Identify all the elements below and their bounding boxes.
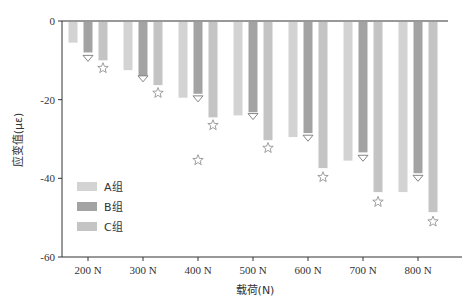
y-ticks: 0-20-40-60: [40, 15, 62, 263]
marker-C组-600N: [318, 172, 328, 182]
y-tick-label: -40: [40, 172, 55, 184]
bar-B组-200N: [84, 22, 93, 52]
legend-label-c: C组: [104, 220, 123, 234]
y-tick-label: 0: [50, 15, 56, 27]
x-tick-label: 200 N: [74, 264, 101, 276]
marker-C组-500N: [263, 143, 273, 153]
x-tick-label: 500 N: [239, 264, 266, 276]
bar-C组-300N: [154, 22, 163, 85]
marker-B组-700N: [358, 155, 368, 161]
x-tick-label: 400 N: [184, 264, 211, 276]
bar-C组-600N: [319, 22, 328, 168]
marker-C组-700N: [373, 196, 383, 206]
bar-B组-700N: [359, 22, 368, 152]
legend-swatch-a: [77, 182, 97, 191]
x-tick-label: 300 N: [129, 264, 156, 276]
marker-C组-400N: [208, 120, 218, 130]
bar-A组-200N: [69, 22, 78, 43]
marker-B组-600N: [303, 135, 313, 141]
bar-A组-600N: [289, 22, 298, 137]
marker-C组-800N: [428, 216, 438, 226]
bar-A组-300N: [124, 22, 133, 70]
legend-label-b: B组: [104, 200, 123, 214]
bar-C组-500N: [264, 22, 273, 140]
bar-A组-800N: [399, 22, 408, 192]
marker-extra-star: [193, 155, 203, 165]
bar-C组-200N: [99, 22, 108, 60]
bar-C组-800N: [429, 22, 438, 212]
x-ticks: 200 N300 N400 N500 N600 N700 N800 N: [74, 257, 431, 276]
y-tick-label: -60: [40, 251, 55, 263]
bar-C组-400N: [209, 22, 218, 117]
bar-B组-800N: [414, 22, 423, 173]
bar-A组-700N: [344, 22, 353, 161]
legend-swatch-b: [77, 202, 97, 211]
legend: A组 B组 C组: [77, 180, 123, 234]
bar-A组-400N: [179, 22, 188, 98]
bar-B组-300N: [139, 22, 148, 76]
x-tick-label: 600 N: [294, 264, 321, 276]
x-tick-label: 700 N: [349, 264, 376, 276]
markers-layer: [83, 55, 438, 226]
bar-A组-500N: [234, 22, 243, 115]
x-tick-label: 800 N: [404, 264, 431, 276]
legend-label-a: A组: [104, 180, 123, 194]
y-axis-title: 应变值(με): [11, 113, 25, 168]
bar-B组-600N: [304, 22, 313, 133]
y-tick-label: -20: [40, 94, 55, 106]
bar-B组-500N: [249, 22, 258, 112]
marker-C组-300N: [153, 88, 163, 98]
x-axis-title: 载荷(N): [236, 284, 275, 297]
bar-B组-400N: [194, 22, 203, 94]
bar-C组-700N: [374, 22, 383, 192]
bar-chart: 0-20-40-60 200 N300 N400 N500 N600 N700 …: [0, 0, 466, 301]
marker-B组-400N: [193, 96, 203, 102]
legend-swatch-c: [77, 222, 97, 231]
marker-B组-300N: [138, 76, 148, 82]
marker-B组-200N: [83, 55, 93, 61]
marker-B组-500N: [248, 114, 258, 120]
marker-B组-800N: [413, 175, 423, 181]
marker-C组-200N: [98, 63, 108, 73]
